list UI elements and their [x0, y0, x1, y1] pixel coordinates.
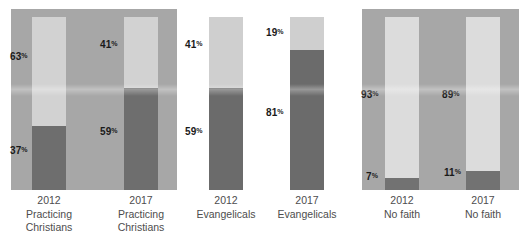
axis-caption-ev-2017: 2017 Evangelicals [252, 194, 362, 221]
caption-line-group-a: No faith [428, 208, 532, 222]
bar-segment-upper [124, 17, 158, 88]
bar-column-ev-2012[interactable] [209, 17, 243, 190]
value-label-ev-2012-upper: 41% [185, 40, 203, 50]
bar-column-nf-2012[interactable] [385, 17, 419, 190]
bar-segment-upper [290, 17, 324, 50]
chart-canvas: 63% 37% 41% 59% 41% 59% 19% 81% 93% 7% 8… [0, 0, 532, 240]
bar-segment-lower [385, 178, 419, 190]
value-label-ev-2017-lower: 81% [266, 108, 284, 118]
bar-segment-upper [466, 17, 500, 171]
caption-line-year: 2017 [252, 194, 362, 208]
caption-line-year: 2017 [428, 194, 532, 208]
bar-column-pc-2012[interactable] [32, 17, 66, 190]
value-label-pc-2012-upper: 63% [10, 52, 28, 62]
bar-segment-lower [466, 171, 500, 190]
bar-column-pc-2017[interactable] [124, 17, 158, 190]
bar-segment-lower [290, 50, 324, 190]
bar-segment-upper [385, 17, 419, 178]
bar-segment-lower [32, 126, 66, 190]
bar-segment-upper [32, 17, 66, 126]
value-label-nf-2012-lower: 7% [366, 172, 378, 182]
bar-column-ev-2017[interactable] [290, 17, 324, 190]
value-label-ev-2017-upper: 19% [266, 28, 284, 38]
caption-line-group-b: Christians [86, 221, 196, 235]
value-label-nf-2017-lower: 11% [444, 168, 461, 178]
bar-column-nf-2017[interactable] [466, 17, 500, 190]
value-label-ev-2012-lower: 59% [185, 127, 203, 137]
axis-caption-nf-2017: 2017 No faith [428, 194, 532, 221]
bar-segment-lower [124, 88, 158, 190]
caption-line-group-a: Evangelicals [252, 208, 362, 222]
value-label-pc-2017-lower: 59% [100, 127, 118, 137]
value-label-nf-2012-upper: 93% [361, 90, 379, 100]
bar-segment-lower [209, 88, 243, 190]
value-label-pc-2017-upper: 41% [100, 40, 118, 50]
value-label-nf-2017-upper: 89% [442, 90, 460, 100]
bar-segment-upper [209, 17, 243, 88]
value-label-pc-2012-lower: 37% [10, 146, 28, 156]
